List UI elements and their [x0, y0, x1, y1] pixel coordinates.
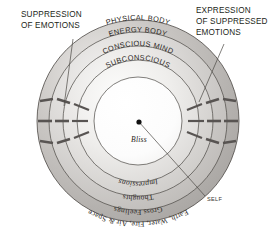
diagram-canvas: PHYSICAL BODY ENERGY BODY CONSCIOUS MIND… [0, 0, 279, 230]
center-dot [136, 119, 141, 124]
layers-of-self-diagram: PHYSICAL BODY ENERGY BODY CONSCIOUS MIND… [0, 0, 279, 230]
ring-label-bliss: Bliss [131, 135, 147, 144]
callout-expression-line-2: OF SUPPRESSED [196, 17, 268, 26]
callout-suppression-line-1: SUPPRESSION [21, 10, 82, 19]
ring-label-thoughts-text: Thoughts [122, 193, 155, 203]
ring-label-thoughts: Thoughts [122, 193, 155, 203]
self-label: SELF [207, 196, 222, 202]
callout-expression-line-3: EMOTIONS [196, 28, 241, 37]
callout-expression: EXPRESSION OF SUPPRESSED EMOTIONS [196, 6, 268, 37]
callout-suppression-line-2: OF EMOTIONS [21, 21, 80, 30]
callout-expression-line-1: EXPRESSION [196, 6, 251, 15]
callout-suppression: SUPPRESSION OF EMOTIONS [21, 10, 82, 30]
